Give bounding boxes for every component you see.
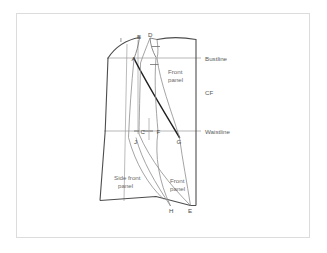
dart-leg-right (150, 38, 156, 58)
point-label-B: B (137, 33, 141, 40)
dart-inner-curve (141, 38, 151, 63)
waistline-label: Waistline (205, 128, 230, 135)
curve-c-to-e (139, 134, 190, 205)
point-label-I: I (120, 36, 122, 43)
pattern-draft-canvas: Bustline Waistline CF Front panel Side f… (0, 0, 327, 253)
point-label-G: G (177, 138, 182, 145)
point-label-H: H (169, 207, 173, 214)
dart-top-notch (150, 38, 157, 40)
shoulder-dart (134, 38, 158, 64)
curve-j-to-h (136, 138, 171, 207)
pattern-draft-figure: Bustline Waistline CF Front panel Side f… (0, 0, 327, 253)
side-front-panel-label-line2: panel (118, 182, 133, 189)
front-panel-upper-label-line1: Front (168, 68, 183, 75)
dart-outer-curve (157, 40, 158, 59)
curve-dart-to-c (139, 63, 141, 134)
point-label-C: C (141, 128, 146, 135)
side-front-panel-label-line1: Side front (114, 174, 141, 181)
point-label-E: E (188, 207, 192, 214)
hem-line (100, 197, 196, 206)
curve-a-to-j (129, 59, 135, 138)
point-label-F: F (157, 128, 161, 135)
point-label-J: J (134, 138, 137, 145)
side-seam-left-edge (100, 58, 108, 201)
cf-label: CF (205, 89, 213, 96)
guideline-group (104, 58, 201, 131)
front-panel-upper-label-line2: panel (168, 76, 183, 83)
bustline-label: Bustline (205, 55, 228, 62)
point-label-D: D (148, 31, 153, 38)
curve-f-up-to-bust (155, 58, 158, 132)
front-panel-lower-label-line1: Front (170, 177, 185, 184)
front-panel-lower-label-line2: panel (170, 185, 185, 192)
neckline-top-curve (157, 38, 196, 40)
